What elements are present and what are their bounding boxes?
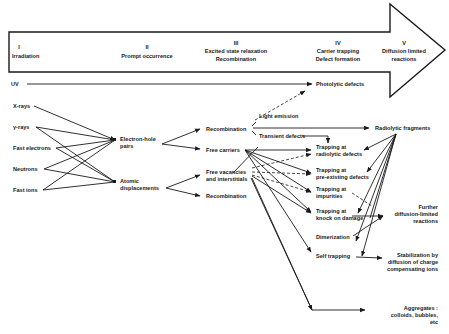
dimerization: Dimerization [316, 234, 350, 240]
stage-2-num: II [145, 44, 149, 50]
electron-hole-pairs-1: Electron-hole [120, 136, 156, 142]
stage-3-label2: Recombination [216, 56, 257, 62]
source-fast-electrons: Fast electrons [13, 145, 51, 151]
further-reactions-2: diffusion-limited [394, 211, 438, 217]
electron-hole-pairs-2: pairs [120, 143, 133, 149]
trapping-knockon-1: Trapping at [316, 208, 346, 214]
photolytic-defects: Photolytic defects [316, 81, 364, 87]
source-gamma: γ-rays [13, 124, 29, 130]
free-vacancies-1: Free vacancies [206, 169, 246, 175]
further-reactions-1: Further [418, 204, 438, 210]
stage-3-num: III [234, 40, 239, 46]
free-carriers: Free carriers [206, 147, 240, 153]
stage-1-label: Irradiation [12, 53, 40, 59]
aggregates-2: colloids, bubbles, [391, 312, 439, 318]
trapping-radiolytic-2: radiolytic defects [316, 151, 362, 157]
radiolytic-fragments: Radiolytic fragments [375, 125, 430, 131]
further-reactions-3: reactions [413, 218, 438, 224]
stage-4-num: IV [335, 40, 341, 46]
trapping-preexisting-2: pre-existing defects [316, 174, 369, 180]
light-emission: Light emission [259, 113, 299, 119]
stabilization-2: diffusion of charge [388, 259, 438, 265]
trapping-impurities-1: Trapping at [316, 186, 346, 192]
stage-5-label2: reactions [392, 56, 417, 62]
stage-4-label: Carrier trapping [317, 48, 360, 54]
trapping-impurities-2: impurities [316, 193, 343, 199]
atomic-displacements-1: Atomic [120, 178, 139, 184]
atomic-displacements-2: displacements [120, 185, 159, 191]
radiation-process-diagram: I Irradiation II Prompt occurrence III E… [0, 0, 449, 334]
aggregates-1: Aggregates : [404, 305, 438, 311]
recombination: Recombination [206, 126, 247, 132]
stabilization-3: compensating ions [387, 266, 438, 272]
stage-5-num: V [402, 40, 406, 46]
source-fast-ions: Fast ions [13, 187, 38, 193]
stage-2-label: Prompt occurrence [121, 53, 172, 59]
transient-defects: Transient defects [259, 133, 305, 139]
source-xrays: X-rays [13, 103, 30, 109]
source-uv: UV [11, 81, 19, 87]
stage-4-label2: Defect formation [316, 56, 361, 62]
stabilization-1: Stabilization by [397, 252, 439, 258]
stage-3-label: Excited state relaxation [205, 48, 268, 54]
aggregates-3: etc [430, 319, 438, 325]
stage-5-label: Diffusion limited [382, 48, 426, 54]
self-trapping: Self trapping [316, 253, 351, 259]
source-neutrons: Neutrons [13, 166, 38, 172]
recombination-2: Recombination [206, 193, 247, 199]
trapping-radiolytic-1: Trapping at [316, 144, 346, 150]
free-vacancies-2: and interstitials [206, 176, 247, 182]
trapping-preexisting-1: Trapping at [316, 167, 346, 173]
